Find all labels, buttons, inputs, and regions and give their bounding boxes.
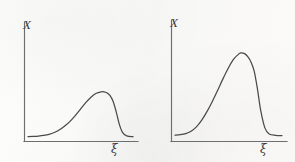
distribution-curve-right: [175, 53, 282, 136]
x-axis-label-right: ξ: [260, 143, 267, 155]
y-axis-label-left: X: [23, 18, 31, 31]
y-axis-label-right: X: [170, 16, 178, 29]
chart-panel-left: X ξ: [0, 0, 148, 162]
distribution-curve-left: [28, 92, 133, 137]
figure-root: X ξ X ξ: [0, 0, 295, 162]
x-axis-label-left: ξ: [111, 143, 118, 155]
chart-panel-right: X ξ: [148, 0, 295, 162]
